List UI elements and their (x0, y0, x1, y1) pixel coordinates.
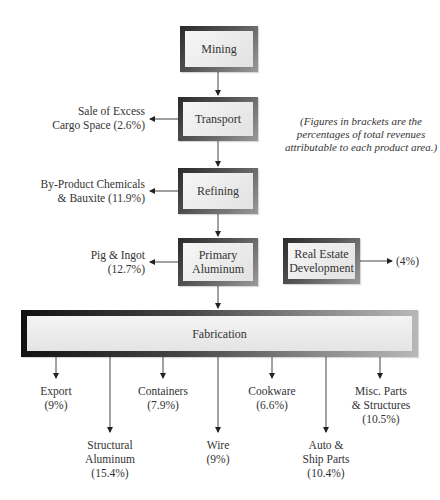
label-line: Sale of Excess (0, 104, 145, 118)
output-byproduct-chemicals: By-Product Chemicals & Bauxite (11.9%) (0, 177, 145, 205)
label-line: (7.9%) (138, 398, 188, 412)
output-real-estate-percent: (4%) (396, 254, 419, 268)
node-refining: Refining (178, 168, 258, 214)
label-line: (4%) (396, 254, 419, 268)
note-line: attributable to each product area.) (282, 141, 440, 154)
label-line: (9%) (207, 452, 230, 466)
label-line: & Structures (352, 398, 410, 412)
label-line: & Bauxite (11.9%) (0, 191, 145, 205)
node-primary-aluminum: Primary Aluminum (178, 238, 258, 286)
label-line: (6.6%) (248, 398, 295, 412)
label-line: (12.7%) (0, 262, 145, 276)
output-pig-ingot: Pig & Ingot (12.7%) (0, 248, 145, 276)
output-sale-of-excess-cargo: Sale of Excess Cargo Space (2.6%) (0, 104, 145, 132)
label-line: Export (40, 384, 71, 398)
output-export: Export (9%) (40, 384, 71, 412)
label-line: Wire (207, 438, 230, 452)
label-line: (10.5%) (352, 412, 410, 426)
node-real-estate: Real Estate Development (283, 238, 360, 284)
label-line: Auto & (303, 438, 350, 452)
node-mining: Mining (180, 26, 258, 72)
legend-note: (Figures in brackets are the percentages… (282, 115, 440, 154)
label-line: Cookware (248, 384, 295, 398)
node-fabrication: Fabrication (21, 310, 418, 357)
output-wire: Wire (9%) (207, 438, 230, 466)
note-line: (Figures in brackets are the (282, 115, 440, 128)
label-line: (9%) (40, 398, 71, 412)
node-label-line2: Development (289, 261, 354, 275)
label-line: By-Product Chemicals (0, 177, 145, 191)
label-line: Pig & Ingot (0, 248, 145, 262)
label-line: Cargo Space (2.6%) (0, 118, 145, 132)
node-label: Mining (201, 42, 236, 56)
label-line: (10.4%) (303, 466, 350, 480)
output-containers: Containers (7.9%) (138, 384, 188, 412)
output-misc-parts: Misc. Parts & Structures (10.5%) (352, 384, 410, 426)
node-label: Refining (197, 184, 239, 198)
node-label: Transport (195, 112, 241, 126)
node-transport: Transport (178, 97, 258, 141)
node-label-line1: Primary (192, 248, 244, 262)
label-line: Structural (85, 438, 135, 452)
node-label-line2: Aluminum (192, 262, 244, 276)
note-line: percentages of total revenues (282, 128, 440, 141)
label-line: Misc. Parts (352, 384, 410, 398)
output-auto-ship-parts: Auto & Ship Parts (10.4%) (303, 438, 350, 480)
label-line: Containers (138, 384, 188, 398)
node-label: Fabrication (192, 327, 247, 341)
label-line: (15.4%) (85, 466, 135, 480)
output-cookware: Cookware (6.6%) (248, 384, 295, 412)
label-line: Ship Parts (303, 452, 350, 466)
node-label-line1: Real Estate (289, 247, 354, 261)
label-line: Aluminum (85, 452, 135, 466)
output-structural-aluminum: Structural Aluminum (15.4%) (85, 438, 135, 480)
